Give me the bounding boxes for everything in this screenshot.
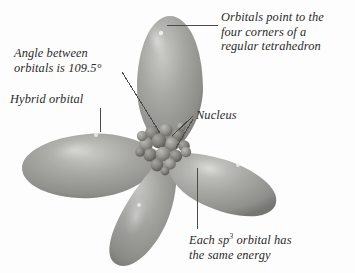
annotation-bond-angle-line1: Angle between: [14, 46, 102, 61]
annotation-tetrahedron-line2: four corners of a: [221, 25, 324, 40]
annotation-nucleus-line1: Nucleus: [196, 108, 237, 123]
annotation-orbital-energy-pre: Each sp: [189, 233, 229, 247]
right-lobe: [166, 152, 276, 216]
sp3-hybrid-orbital-diagram: Orbitals point to the four corners of a …: [0, 0, 355, 273]
annotation-nucleus: Nucleus: [196, 108, 237, 123]
annotation-bond-angle: Angle between orbitals is 109.5°: [14, 46, 102, 75]
annotation-tetrahedron-line1: Orbitals point to the: [221, 10, 324, 25]
annotation-hybrid-orbital: Hybrid orbital: [10, 92, 83, 107]
annotation-tetrahedron-line3: regular tetrahedron: [221, 39, 324, 54]
annotation-orbital-energy-post: orbital has: [233, 233, 291, 247]
annotation-orbital-energy-line2: the same energy: [189, 248, 292, 263]
annotation-tetrahedron: Orbitals point to the four corners of a …: [221, 10, 324, 54]
annotation-orbital-energy-line1: Each sp3 orbital has: [189, 233, 292, 248]
annotation-orbital-energy: Each sp3 orbital has the same energy: [189, 233, 292, 262]
annotation-hybrid-orbital-line1: Hybrid orbital: [10, 92, 83, 107]
annotation-bond-angle-line2: orbitals is 109.5°: [14, 61, 102, 76]
